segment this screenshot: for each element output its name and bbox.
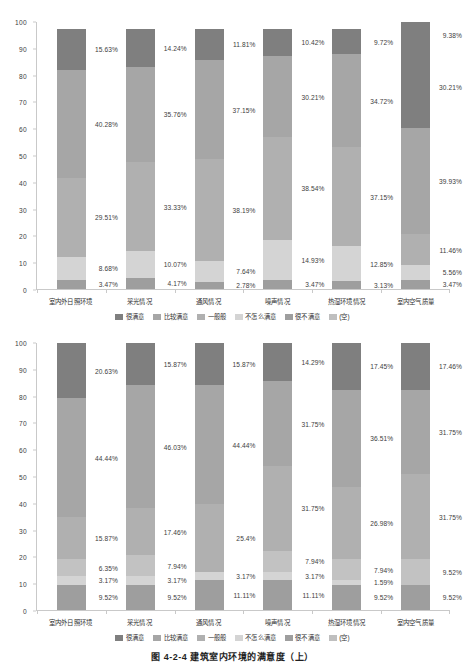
bar-segment[interactable]: 20.63%	[57, 343, 86, 398]
y-axis-tick-label: 0	[0, 287, 31, 294]
bar-segment[interactable]: 14.93%	[263, 240, 292, 280]
legend-item[interactable]: 不怎么满意	[235, 312, 276, 321]
bar-segment[interactable]: 25.4%	[195, 504, 224, 572]
bar-segment[interactable]: 14.29%	[263, 343, 292, 381]
bar-segment[interactable]: 17.46%	[401, 343, 430, 390]
y-axis-tick-mark	[33, 209, 36, 210]
bar-segment[interactable]: 3.47%	[263, 280, 292, 289]
bar-segment[interactable]: 3.13%	[332, 281, 361, 289]
stacked-bar[interactable]: 2.78%7.64%38.19%37.15%11.81%	[195, 22, 224, 289]
bar-segment[interactable]: 34.72%	[332, 54, 361, 147]
bar-segment[interactable]: 39.93%	[401, 128, 430, 235]
stacked-bar[interactable]: 3.47%8.68%29.51%40.28%15.63%	[57, 22, 86, 289]
bar-segment[interactable]: 31.75%	[401, 474, 430, 559]
stacked-bar[interactable]: 9.52%1.59%7.94%26.98%36.51%17.45%	[332, 343, 361, 610]
bar-segment[interactable]: 11.11%	[195, 580, 224, 610]
stacked-bar[interactable]: 11.11%3.17%7.94%31.75%31.75%14.29%	[263, 343, 292, 610]
bar-segment[interactable]: 15.87%	[126, 343, 155, 385]
bar-segment[interactable]: 8.68%	[57, 257, 86, 280]
bar-segment[interactable]: 3.17%	[263, 572, 292, 580]
bar-segment[interactable]: 15.87%	[57, 517, 86, 559]
bar-segment[interactable]: 38.54%	[263, 137, 292, 240]
bar-segment[interactable]: 3.47%	[401, 280, 430, 289]
bar-segment[interactable]: 7.94%	[126, 555, 155, 576]
legend-item[interactable]: 比较满意	[153, 633, 188, 642]
legend-color-swatch	[285, 314, 293, 320]
legend-item[interactable]: 一般般	[197, 312, 226, 321]
bar-segment[interactable]: 9.52%	[57, 585, 86, 610]
bar-segment[interactable]: 17.46%	[126, 508, 155, 555]
bar-segment[interactable]: 33.33%	[126, 162, 155, 251]
bar-segment[interactable]: 11.81%	[195, 29, 224, 61]
bar-segment[interactable]: 36.51%	[332, 390, 361, 487]
bar-segment[interactable]: 11.46%	[401, 234, 430, 265]
bar-segment[interactable]: 31.75%	[263, 466, 292, 551]
bar-segment[interactable]: 15.63%	[57, 29, 86, 71]
stacked-bar[interactable]: 3.13%12.85%37.15%34.72%9.72%	[332, 22, 361, 289]
bar-segment[interactable]: 38.19%	[195, 159, 224, 261]
stacked-bar[interactable]: 9.52%3.17%6.35%15.87%44.44%20.63%	[57, 343, 86, 610]
bar-segment[interactable]: 14.24%	[126, 29, 155, 67]
bar-segment[interactable]: 31.75%	[401, 390, 430, 475]
bar-segment[interactable]: 44.44%	[195, 385, 224, 504]
bar-segment[interactable]: 12.85%	[332, 246, 361, 280]
bar-segment[interactable]: 6.35%	[57, 559, 86, 576]
legend-item[interactable]: 一般般	[197, 633, 226, 642]
bar-segment[interactable]: 10.07%	[126, 251, 155, 278]
bar-segment[interactable]: 35.76%	[126, 67, 155, 162]
bar-segment[interactable]: 7.94%	[332, 559, 361, 580]
bar-segment[interactable]: 10.42%	[263, 29, 292, 57]
bar-segment[interactable]: 4.17%	[126, 278, 155, 289]
y-axis-tick-mark	[33, 129, 36, 130]
legend-item[interactable]: (空)	[329, 633, 350, 642]
bar-segment[interactable]: 15.87%	[195, 343, 224, 385]
legend-item[interactable]: 不怎么满意	[235, 633, 276, 642]
legend-item[interactable]: 比较满意	[153, 312, 188, 321]
stacked-bar[interactable]: 9.52%9.52%31.75%31.75%17.46%	[401, 343, 430, 610]
bar-segment[interactable]: 30.21%	[263, 56, 292, 137]
bar-segment[interactable]: 37.15%	[195, 60, 224, 159]
legend-label: 比较满意	[164, 312, 188, 321]
bar-segment[interactable]: 3.47%	[57, 280, 86, 289]
bar-segment[interactable]: 44.44%	[57, 398, 86, 517]
legend-item[interactable]: 很不满意	[285, 633, 320, 642]
bar-segment-value-label: 11.46%	[440, 246, 462, 253]
bar-segment[interactable]: 26.98%	[332, 487, 361, 559]
bar-segment[interactable]: 9.72%	[332, 29, 361, 55]
bar-segment[interactable]: 46.03%	[126, 385, 155, 508]
stacked-bar[interactable]: 3.47%14.93%38.54%30.21%10.42%	[263, 22, 292, 289]
bar-segment[interactable]: 29.51%	[57, 178, 86, 257]
stacked-bar[interactable]: 3.47%5.56%11.46%39.93%30.21%9.38%	[401, 22, 430, 289]
bar-segment[interactable]: 9.52%	[126, 585, 155, 610]
bar-segment-value-label: 30.21%	[439, 84, 462, 91]
stacked-bar[interactable]: 11.11%3.17%25.4%44.44%15.87%	[195, 343, 224, 610]
bar-segment[interactable]: 31.75%	[263, 381, 292, 466]
bar-segment[interactable]: 9.52%	[401, 559, 430, 584]
bar-segment[interactable]: 9.52%	[332, 585, 361, 610]
bar-group: 11.11%3.17%7.94%31.75%31.75%14.29%	[243, 343, 312, 610]
bar-segment[interactable]: 3.17%	[195, 572, 224, 580]
bar-segment[interactable]: 2.78%	[195, 282, 224, 289]
bar-segment[interactable]: 17.45%	[332, 343, 361, 390]
stacked-bar[interactable]: 9.52%3.17%7.94%17.46%46.03%15.87%	[126, 343, 155, 610]
bar-segment[interactable]: 7.64%	[195, 261, 224, 281]
bar-segment[interactable]: 3.17%	[126, 576, 155, 584]
legend-item[interactable]: 很满意	[115, 312, 144, 321]
bar-segment[interactable]: 7.94%	[263, 551, 292, 572]
bar-segment[interactable]: 37.15%	[332, 147, 361, 246]
bar-segment[interactable]: 40.28%	[57, 70, 86, 178]
bar-segment[interactable]: 9.38%	[401, 22, 430, 47]
bar-segment[interactable]: 30.21%	[401, 47, 430, 128]
bar-segment[interactable]: 11.11%	[263, 580, 292, 610]
stacked-bar[interactable]: 4.17%10.07%33.33%35.76%14.24%	[126, 22, 155, 289]
bar-segment[interactable]: 1.59%	[332, 580, 361, 584]
bar-segment[interactable]: 9.52%	[401, 585, 430, 610]
y-axis-tick-label: 40	[0, 500, 31, 507]
legend-item[interactable]: (空)	[329, 312, 350, 321]
bar-segment[interactable]: 3.17%	[57, 576, 86, 584]
legend-item[interactable]: 很不满意	[285, 312, 320, 321]
y-axis-tick-mark	[33, 48, 36, 49]
bar-segment[interactable]: 5.56%	[401, 265, 430, 280]
y-axis-tick-mark	[33, 503, 36, 504]
legend-item[interactable]: 很满意	[115, 633, 144, 642]
